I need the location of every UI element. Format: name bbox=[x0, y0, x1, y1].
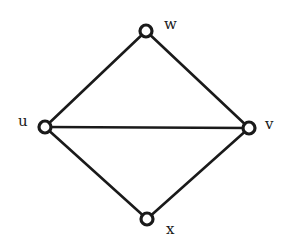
edge-u-v bbox=[45, 127, 249, 128]
edge-u-w bbox=[45, 31, 146, 127]
node-x bbox=[141, 213, 153, 225]
graph-diagram: w u v x bbox=[0, 0, 292, 252]
node-v bbox=[243, 122, 255, 134]
edge-x-v bbox=[147, 128, 249, 219]
node-label-u: u bbox=[18, 112, 28, 130]
edges bbox=[45, 31, 249, 219]
node-w bbox=[140, 25, 152, 37]
node-label-x: x bbox=[166, 220, 175, 238]
node-label-v: v bbox=[264, 115, 274, 133]
edge-w-v bbox=[146, 31, 249, 128]
edge-u-x bbox=[45, 127, 147, 219]
nodes bbox=[39, 25, 255, 225]
node-label-w: w bbox=[164, 15, 177, 33]
node-u bbox=[39, 121, 51, 133]
